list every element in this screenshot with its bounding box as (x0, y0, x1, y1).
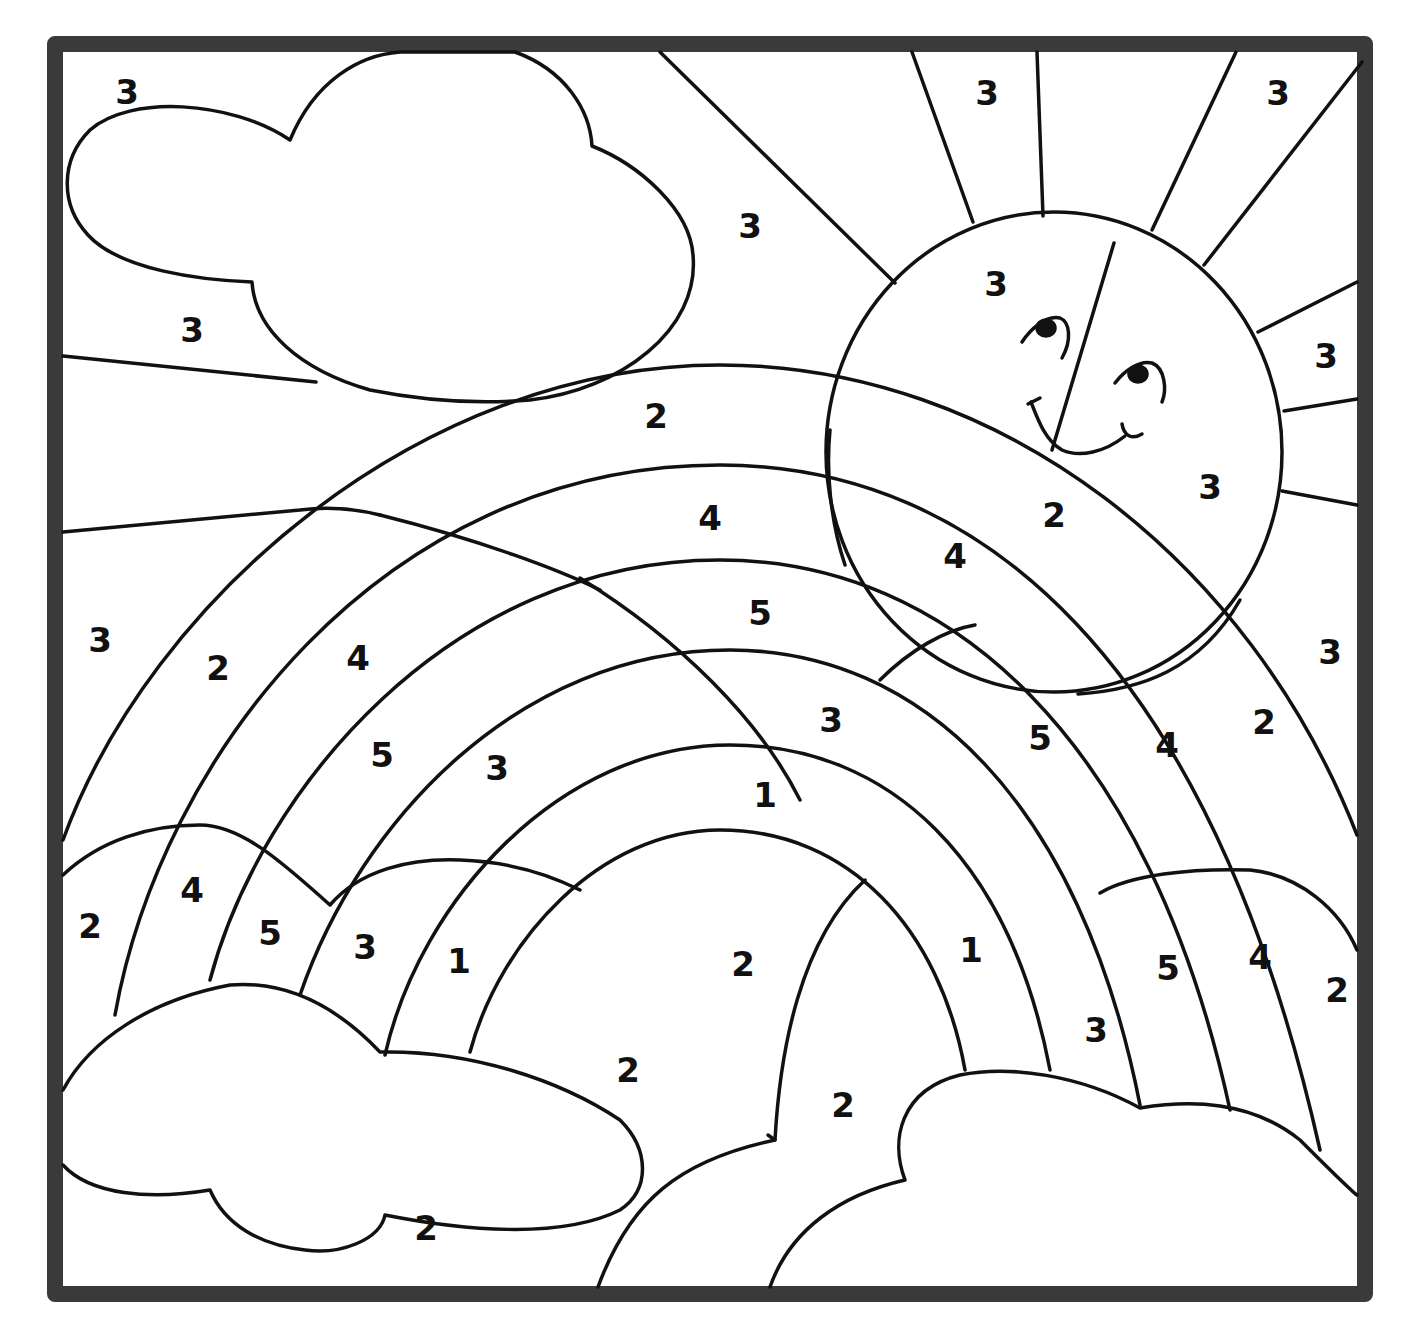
region-number: 5 (748, 596, 772, 630)
frame-border (55, 44, 1365, 1294)
arc-band-2-outer (63, 365, 1357, 840)
region-number: 3 (1314, 339, 1338, 373)
region-number: 2 (206, 651, 230, 685)
region-number: 4 (180, 873, 204, 907)
region-number: 1 (753, 778, 777, 812)
region-number: 4 (698, 501, 722, 535)
sun-smile (1031, 402, 1125, 454)
region-number: 5 (1156, 951, 1180, 985)
sun-pupil-left (1037, 320, 1055, 336)
region-number: 1 (959, 933, 983, 967)
region-number: 2 (616, 1053, 640, 1087)
cloud-top-left (67, 52, 693, 402)
region-number: 3 (1318, 635, 1342, 669)
arc-band-1-2 (470, 830, 965, 1070)
region-number: 3 (819, 703, 843, 737)
region-number: 2 (644, 399, 668, 433)
arc-band-2-4 (115, 465, 1320, 1150)
region-number: 4 (1248, 940, 1272, 974)
region-number: 2 (1325, 973, 1349, 1007)
region-number: 1 (447, 944, 471, 978)
region-number: 2 (1042, 498, 1066, 532)
region-number: 3 (485, 751, 509, 785)
region-number: 3 (180, 313, 204, 347)
region-number: 2 (831, 1088, 855, 1122)
region-number: 2 (731, 947, 755, 981)
region-number: 4 (346, 641, 370, 675)
region-number: 2 (1252, 705, 1276, 739)
sun-divider (1052, 243, 1114, 450)
region-number: 3 (353, 930, 377, 964)
region-number: 3 (115, 75, 139, 109)
color-by-number-sheet: 33333333324245324533542124531215423222 (0, 0, 1409, 1335)
region-number: 4 (1155, 728, 1179, 762)
region-number: 3 (1266, 76, 1290, 110)
sun-pupil-right (1129, 366, 1147, 382)
region-number: 3 (984, 267, 1008, 301)
arc-band-5-3 (300, 650, 1140, 1105)
region-number: 3 (738, 209, 762, 243)
region-number: 3 (1084, 1013, 1108, 1047)
region-number: 2 (414, 1211, 438, 1245)
region-number: 5 (370, 738, 394, 772)
arc-band-3-1 (385, 745, 1050, 1070)
region-number: 2 (78, 909, 102, 943)
region-number: 5 (1028, 721, 1052, 755)
cloud-bottom-right (770, 1071, 1357, 1287)
region-number: 3 (88, 623, 112, 657)
cloud-bottom-left (63, 984, 643, 1251)
cloud-mid-left (63, 825, 580, 905)
sun-cheek-right (1122, 424, 1142, 437)
region-number: 5 (258, 916, 282, 950)
region-number: 3 (975, 76, 999, 110)
region-number: 4 (943, 539, 967, 573)
rainbow-dividers (380, 430, 1240, 800)
cloud-mid-right (1100, 870, 1357, 950)
region-number: 3 (1198, 470, 1222, 504)
